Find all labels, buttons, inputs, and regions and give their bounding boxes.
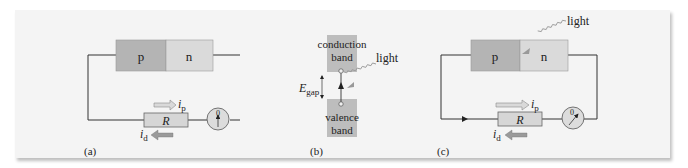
svg-text:band: band [331, 124, 353, 136]
electron-icon [339, 69, 343, 73]
gap-label: Egap [298, 81, 320, 97]
panel-c: p n light R 0 ip id (c) [437, 12, 597, 158]
svg-text:ip: ip [178, 97, 186, 113]
panel-a: p n R 0 ip id (a) [84, 40, 240, 158]
svg-text:p: p [492, 49, 499, 64]
light-label: light [376, 51, 399, 65]
light-ray-icon [538, 12, 566, 40]
panel-label-b: (b) [310, 145, 323, 158]
circuit-diagram: p n R 0 ip id (a) conduction band valenc… [0, 0, 688, 168]
light-label: light [567, 14, 590, 28]
svg-text:ip: ip [531, 97, 539, 113]
panel-b: conduction band valence band Egap light … [298, 35, 399, 158]
svg-text:0: 0 [570, 108, 574, 117]
svg-text:R: R [515, 113, 524, 127]
ip-arrow-icon [154, 100, 176, 110]
ip-arrow-icon [496, 100, 529, 110]
svg-text:band: band [331, 51, 353, 63]
svg-text:id: id [140, 127, 148, 143]
p-label: p [138, 49, 145, 64]
resistor-label: R [161, 114, 170, 128]
svg-text:conduction: conduction [318, 38, 367, 50]
svg-text:id: id [493, 127, 501, 143]
n-label: n [186, 49, 193, 64]
svg-text:n: n [541, 49, 548, 64]
svg-text:valence: valence [325, 111, 359, 123]
panel-label-a: (a) [84, 145, 97, 158]
id-arrow-icon [505, 130, 527, 140]
panel-label-c: (c) [437, 145, 450, 158]
id-arrow-icon [151, 130, 173, 140]
hole-icon [339, 102, 343, 106]
